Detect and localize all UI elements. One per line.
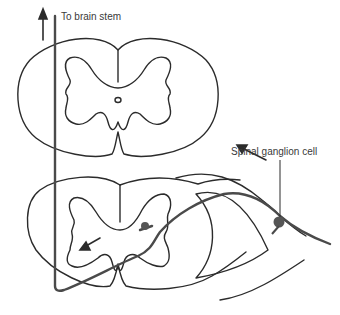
- upper-cord-section: [18, 39, 218, 157]
- lower-gray-matter: [67, 194, 170, 270]
- lower-cord-outline-left: [27, 177, 246, 289]
- ganglion-cell-stalk: [272, 226, 279, 234]
- spinal-ganglion-cell-label: Spinal ganglion cell: [231, 146, 317, 157]
- lower-cord-section: [27, 174, 306, 300]
- spinal-ganglion-cell-body: [274, 217, 285, 228]
- upper-central-canal: [115, 98, 121, 103]
- lower-cord-outline-top: [120, 178, 240, 185]
- to-brain-stem-label: To brain stem: [61, 11, 121, 22]
- inner-arrow-icon: [80, 242, 90, 250]
- up-arrow-icon: [39, 9, 47, 19]
- dorsal-root-ganglion: [196, 192, 268, 278]
- spinal-cord-diagram: [0, 0, 340, 315]
- interneuron-cell-body: [141, 222, 149, 230]
- nerve-sheath-lower: [220, 260, 304, 300]
